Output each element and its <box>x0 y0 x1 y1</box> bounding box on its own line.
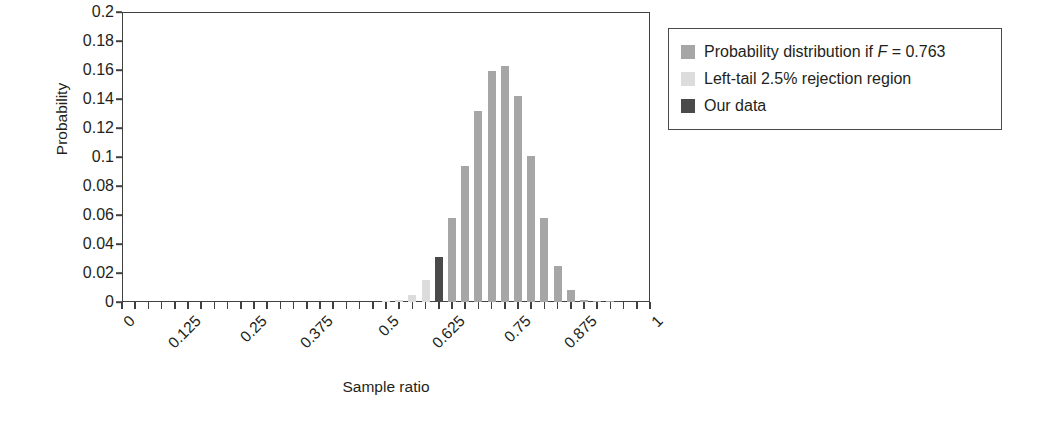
bar-distribution <box>488 71 496 302</box>
bar-distribution <box>527 156 535 302</box>
legend-item: Left-tail 2.5% rejection region <box>681 65 989 92</box>
x-axis-tick-mark <box>227 302 229 309</box>
bar-distribution <box>474 111 482 302</box>
bar-distribution <box>567 290 575 302</box>
x-axis-tick-mark <box>187 302 189 309</box>
bar-rejection <box>408 295 416 302</box>
legend-item: Our data <box>681 92 989 119</box>
legend-label: Left-tail 2.5% rejection region <box>704 71 911 87</box>
x-axis-tick-mark <box>451 302 453 309</box>
x-axis-tick-mark <box>504 302 506 309</box>
x-axis-tick-mark <box>438 302 440 309</box>
x-axis-tick-mark <box>174 302 176 309</box>
bar-distribution <box>448 218 456 302</box>
y-axis-tick-mark <box>116 156 122 158</box>
legend-label-symbol: F <box>877 43 887 60</box>
y-axis-tick-mark <box>116 214 122 216</box>
bar-our_data <box>435 257 443 302</box>
x-axis-tick-mark <box>385 302 387 309</box>
x-axis-tick-mark <box>266 302 268 309</box>
x-axis-tick-mark <box>649 302 651 309</box>
x-axis-tick-mark <box>557 302 559 309</box>
x-axis-tick-mark <box>121 302 123 309</box>
x-axis-title: Sample ratio <box>122 378 650 396</box>
y-axis-tick-mark <box>116 272 122 274</box>
y-axis-tick-mark <box>116 98 122 100</box>
x-axis-tick-mark <box>346 302 348 309</box>
x-axis-tick-mark <box>253 302 255 309</box>
x-axis-tick-mark <box>359 302 361 309</box>
legend-label: Probability distribution if F = 0.763 <box>704 44 945 60</box>
legend-swatch-our_data <box>681 99 695 113</box>
x-axis-tick-mark <box>214 302 216 309</box>
legend-item: Probability distribution if F = 0.763 <box>681 38 989 65</box>
x-axis-tick-mark <box>464 302 466 309</box>
x-axis-tick-mark <box>636 302 638 309</box>
chart-figure: Probability 0.20.180.160.140.120.10.080.… <box>0 0 1042 428</box>
legend-swatch-distribution <box>681 45 695 59</box>
x-axis-tick-mark <box>544 302 546 309</box>
bar-distribution <box>461 166 469 302</box>
y-axis-tick-mark <box>116 69 122 71</box>
x-axis-tick-mark <box>319 302 321 309</box>
y-axis-tick-mark <box>116 11 122 13</box>
x-axis-tick-mark <box>240 302 242 309</box>
bar-distribution <box>501 66 509 302</box>
bar-rejection <box>422 280 430 302</box>
x-axis-tick-mark <box>293 302 295 309</box>
x-axis-tick-mark <box>332 302 334 309</box>
x-axis-tick-mark <box>570 302 572 309</box>
x-axis-tick-mark <box>148 302 150 309</box>
x-axis-tick-mark <box>398 302 400 309</box>
x-axis-tick-mark <box>610 302 612 309</box>
y-axis-tick-mark <box>116 243 122 245</box>
y-axis-tick-mark <box>116 127 122 129</box>
x-axis-tick-mark <box>412 302 414 309</box>
y-axis-tick-mark <box>116 40 122 42</box>
bar-distribution <box>540 218 548 302</box>
x-axis-tick-mark <box>161 302 163 309</box>
legend-label: Our data <box>704 98 766 114</box>
x-axis-tick-mark <box>200 302 202 309</box>
x-axis-tick-mark <box>517 302 519 309</box>
x-axis-tick-mark <box>530 302 532 309</box>
chart-legend: Probability distribution if F = 0.763Lef… <box>668 28 1002 130</box>
bar-distribution <box>514 96 522 302</box>
y-axis-tick-mark <box>116 185 122 187</box>
x-axis-tick-mark <box>596 302 598 309</box>
legend-swatch-rejection <box>681 72 695 86</box>
x-axis-tick-mark <box>583 302 585 309</box>
x-axis-tick-mark <box>478 302 480 309</box>
x-axis-tick-mark <box>306 302 308 309</box>
x-axis-tick-mark <box>425 302 427 309</box>
x-axis-tick-mark <box>372 302 374 309</box>
x-axis-tick-mark <box>491 302 493 309</box>
x-axis-tick-mark <box>134 302 136 309</box>
x-axis-tick-mark <box>280 302 282 309</box>
bar-distribution <box>554 266 562 302</box>
x-axis-tick-mark <box>623 302 625 309</box>
